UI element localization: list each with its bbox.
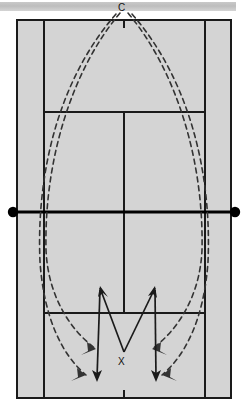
player-label: X <box>118 357 125 367</box>
coach-label: C <box>118 3 125 13</box>
diagram-canvas: C X <box>0 0 249 413</box>
player-path-vertical-right <box>155 290 156 378</box>
court-diagram <box>0 0 249 413</box>
court-svg <box>0 0 249 413</box>
net-post-right <box>230 207 240 217</box>
net-post-left <box>8 207 18 217</box>
